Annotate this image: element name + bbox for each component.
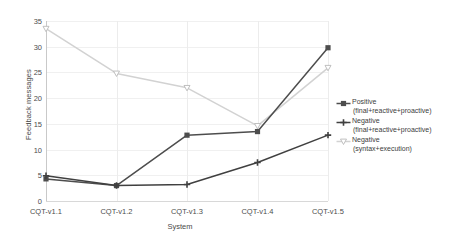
legend-entry-1: Negative(final+reactive+proactive) bbox=[336, 117, 464, 135]
legend-label-secondary-0: (final+reactive+proactive) bbox=[352, 107, 464, 116]
data-point-0-2 bbox=[184, 133, 189, 138]
data-point-1-4 bbox=[325, 132, 331, 138]
x-axis-title: System bbox=[30, 222, 330, 231]
y-tick-15: 15 bbox=[34, 119, 42, 128]
y-axis-title: Feedback messages bbox=[24, 35, 33, 175]
y-tick-20: 20 bbox=[34, 94, 42, 103]
data-point-0-4 bbox=[325, 45, 330, 50]
series-layer bbox=[46, 21, 328, 201]
x-tick-CQT-v1.5: CQT-v1.5 bbox=[312, 207, 344, 216]
series-line-1 bbox=[46, 135, 328, 185]
y-tick-25: 25 bbox=[34, 68, 42, 77]
legend-marker-triangle-down-icon bbox=[336, 137, 351, 146]
series-line-0 bbox=[46, 48, 328, 186]
data-point-1-2 bbox=[184, 181, 190, 187]
plot-area: 05101520253035 CQT-v1.1CQT-v1.2CQT-v1.3C… bbox=[46, 21, 328, 201]
series-line-2 bbox=[46, 29, 328, 126]
y-tick-30: 30 bbox=[34, 42, 42, 51]
legend-label-secondary-1: (final+reactive+proactive) bbox=[352, 126, 464, 135]
legend-label-secondary-2: (syntax+execution) bbox=[352, 145, 464, 154]
legend-label-0: Positive(final+reactive+proactive) bbox=[352, 98, 464, 116]
x-tick-CQT-v1.3: CQT-v1.3 bbox=[171, 207, 203, 216]
x-tick-CQT-v1.2: CQT-v1.2 bbox=[100, 207, 132, 216]
legend-entry-0: Positive(final+reactive+proactive) bbox=[336, 98, 464, 116]
legend-label-primary-2: Negative bbox=[352, 136, 464, 145]
chart-legend: Positive(final+reactive+proactive)Negati… bbox=[336, 98, 464, 155]
x-tick-CQT-v1.4: CQT-v1.4 bbox=[241, 207, 273, 216]
feedback-messages-line-chart: Feedback messages 05101520253035 CQT-v1.… bbox=[0, 0, 468, 242]
legend-label-2: Negative(syntax+execution) bbox=[352, 136, 464, 154]
legend-label-primary-1: Negative bbox=[352, 117, 464, 126]
y-tick-5: 5 bbox=[38, 171, 42, 180]
series-2 bbox=[43, 26, 331, 129]
series-0 bbox=[43, 45, 330, 188]
legend-marker-plus-icon bbox=[336, 118, 351, 127]
y-tick-0: 0 bbox=[38, 197, 42, 206]
gridline-0 bbox=[46, 201, 328, 202]
data-point-0-3 bbox=[255, 129, 260, 134]
legend-entry-2: Negative(syntax+execution) bbox=[336, 136, 464, 154]
y-tick-10: 10 bbox=[34, 145, 42, 154]
legend-label-1: Negative(final+reactive+proactive) bbox=[352, 117, 464, 135]
data-point-1-3 bbox=[254, 159, 260, 165]
legend-label-primary-0: Positive bbox=[352, 98, 464, 107]
y-tick-35: 35 bbox=[34, 17, 42, 26]
legend-marker-square-icon bbox=[336, 99, 351, 108]
series-1 bbox=[43, 132, 331, 189]
x-tick-CQT-v1.1: CQT-v1.1 bbox=[30, 207, 62, 216]
